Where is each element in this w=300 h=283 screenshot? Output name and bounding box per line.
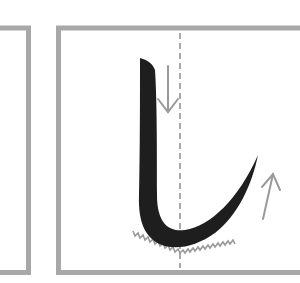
up-arrow-icon	[262, 174, 280, 219]
down-arrow-icon	[158, 66, 178, 112]
diagram-svg	[0, 0, 300, 283]
previous-panel-box	[0, 28, 29, 273]
brush-stroke	[139, 58, 258, 247]
stroke-diagram	[0, 0, 300, 283]
